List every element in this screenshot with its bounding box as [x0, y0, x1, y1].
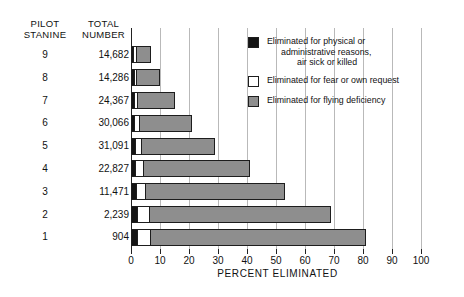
bar-segment-gray	[138, 93, 173, 108]
bar-segment-white	[137, 207, 151, 222]
axis-tick	[363, 249, 364, 254]
total-number-value: 14,682	[76, 44, 129, 67]
legend-swatch-black	[248, 37, 259, 48]
bar-segment-gray	[146, 184, 284, 199]
bar-segment-gray	[151, 230, 365, 245]
bar-segment-white	[137, 230, 152, 245]
stacked-bar	[131, 160, 250, 177]
stanine-value: 9	[14, 44, 76, 67]
bar-row	[131, 158, 424, 181]
header-total-number: TOTAL NUMBER	[76, 18, 131, 40]
legend-label: Eliminated for physical oradministrative…	[267, 36, 448, 68]
legend: Eliminated for physical oradministrative…	[248, 36, 448, 115]
stacked-bar	[131, 138, 215, 155]
row-label-column: 914,682814,286724,367630,066531,091422,8…	[0, 44, 131, 249]
axis-tick	[131, 249, 132, 254]
stacked-bar	[131, 183, 285, 200]
stacked-bar	[131, 92, 175, 109]
stacked-bar	[131, 229, 366, 246]
stanine-value: 5	[14, 135, 76, 158]
stanine-value: 3	[14, 181, 76, 204]
legend-label: Eliminated for flying deficiency	[267, 95, 448, 106]
axis-tick	[276, 249, 277, 254]
total-number-value: 22,827	[76, 158, 129, 181]
axis-tick-label: 100	[406, 255, 436, 266]
axis-tick-label: 20	[174, 255, 204, 266]
axis-tick-label: 50	[261, 255, 291, 266]
pilot-stanine-elimination-chart: PILOT STANINE TOTAL NUMBER 914,682814,28…	[0, 0, 464, 297]
bar-row	[131, 204, 424, 227]
stacked-bar	[131, 46, 151, 63]
legend-swatch-white	[248, 76, 259, 87]
legend-label: Eliminated for fear or own request	[267, 75, 448, 86]
stanine-value: 2	[14, 204, 76, 227]
bar-row	[131, 226, 424, 249]
bar-segment-gray	[137, 70, 159, 85]
stanine-value: 8	[14, 67, 76, 90]
legend-item: Eliminated for physical oradministrative…	[248, 36, 448, 68]
total-number-value: 24,367	[76, 90, 129, 113]
bar-row	[131, 135, 424, 158]
stacked-bar	[131, 206, 331, 223]
axis-tick-label: 70	[319, 255, 349, 266]
bar-segment-gray	[150, 207, 330, 222]
bar-segment-gray	[137, 47, 151, 62]
axis-tick	[305, 249, 306, 254]
total-number-value: 11,471	[76, 181, 129, 204]
stacked-bar	[131, 69, 160, 86]
axis-tick-label: 10	[145, 255, 175, 266]
axis-tick	[189, 249, 190, 254]
legend-item: Eliminated for fear or own request	[248, 75, 448, 88]
total-number-value: 30,066	[76, 112, 129, 135]
total-number-value: 14,286	[76, 67, 129, 90]
x-axis-title: PERCENT ELIMINATED	[131, 268, 424, 279]
stanine-value: 6	[14, 112, 76, 135]
stanine-value: 4	[14, 158, 76, 181]
stanine-value: 7	[14, 90, 76, 113]
axis-tick	[218, 249, 219, 254]
axis-tick-label: 90	[377, 255, 407, 266]
total-number-value: 904	[76, 226, 129, 249]
axis-tick	[392, 249, 393, 254]
bar-segment-gray	[142, 139, 214, 154]
axis-tick-label: 60	[290, 255, 320, 266]
axis-tick	[334, 249, 335, 254]
legend-swatch-gray	[248, 96, 259, 107]
x-axis: 0102030405060708090100	[131, 249, 424, 269]
axis-tick	[421, 249, 422, 254]
stacked-bar	[131, 115, 192, 132]
bar-row	[131, 112, 424, 135]
total-number-value: 2,239	[76, 204, 129, 227]
header-pilot-stanine: PILOT STANINE	[14, 18, 76, 40]
row-label-headers: PILOT STANINE TOTAL NUMBER	[0, 18, 131, 44]
bar-segment-white	[135, 161, 143, 176]
bar-segment-white	[135, 139, 142, 154]
bar-segment-gray	[140, 116, 191, 131]
bar-row	[131, 181, 424, 204]
stanine-value: 1	[14, 226, 76, 249]
axis-tick	[160, 249, 161, 254]
axis-tick-label: 0	[116, 255, 146, 266]
bar-segment-white	[136, 184, 146, 199]
total-number-value: 31,091	[76, 135, 129, 158]
bar-segment-gray	[144, 161, 249, 176]
axis-tick	[247, 249, 248, 254]
axis-tick-label: 30	[203, 255, 233, 266]
axis-tick-label: 40	[232, 255, 262, 266]
legend-item: Eliminated for flying deficiency	[248, 95, 448, 108]
axis-tick-label: 80	[348, 255, 378, 266]
